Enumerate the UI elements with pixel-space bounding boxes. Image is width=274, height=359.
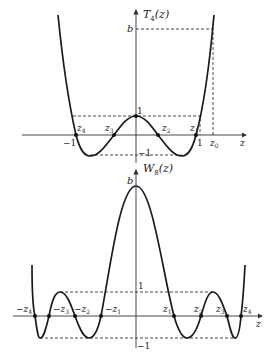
- bottom-plot-w8: W8(z) b 1 −1 z −z4 −z3 −z2 −z1 z1 z2 z3 …: [13, 162, 262, 351]
- bottom-root-z1: [172, 314, 176, 318]
- bottom-root-minus-z4: [33, 314, 37, 318]
- bottom-b-label: b: [127, 175, 133, 186]
- top-xlabel: z: [239, 138, 245, 148]
- bottom-root-label-z1: z1: [162, 304, 172, 315]
- bottom-root-label-minus-z3: −z3: [53, 304, 69, 315]
- w8-curve: [32, 186, 245, 338]
- top-one-guide: [73, 116, 200, 135]
- top-root-label-z3: z3: [104, 123, 114, 134]
- top-root-z2: [156, 133, 160, 137]
- bottom-root-label-z4: z4: [242, 304, 252, 315]
- chebyshev-figure: T4(z) b 1 −1 −1 1 z0 z z4 z3 z2 z1 W8(z)…: [0, 0, 274, 359]
- bottom-root-label-z2: z2: [193, 304, 203, 315]
- bottom-one-label: 1: [138, 281, 144, 291]
- bottom-xlabel: z: [255, 319, 261, 329]
- top-root-label-z4: z4: [76, 123, 86, 134]
- top-minus-one-label: −1: [138, 148, 151, 158]
- bottom-root-label-minus-z2: −z2: [74, 304, 90, 315]
- bottom-root-minus-z2: [73, 314, 77, 318]
- top-x-one-label: 1: [197, 138, 203, 148]
- bottom-root-label-minus-z4: −z4: [16, 304, 32, 315]
- bottom-root-minus-z3: [47, 314, 51, 318]
- bottom-ylabel: W8(z): [143, 162, 173, 177]
- top-root-z4: [74, 133, 78, 137]
- bottom-root-z3: [225, 314, 229, 318]
- bottom-minus-one-label: −1: [137, 341, 150, 351]
- bottom-root-z4: [239, 314, 243, 318]
- top-root-label-z2: z2: [161, 123, 171, 134]
- bottom-root-minus-z1: [99, 314, 103, 318]
- top-one-label: 1: [137, 106, 143, 116]
- top-z0-label: z0: [209, 138, 219, 149]
- top-b-label: b: [127, 23, 133, 34]
- top-x-minus-one-label: −1: [63, 138, 76, 148]
- top-ylabel: T4(z): [143, 8, 169, 23]
- top-root-label-z1: z1: [189, 123, 199, 134]
- top-plot-t4: T4(z) b 1 −1 −1 1 z0 z z4 z3 z2 z1: [22, 8, 246, 163]
- top-b-guide: [136, 29, 213, 135]
- bottom-root-label-minus-z1: −z1: [105, 304, 121, 315]
